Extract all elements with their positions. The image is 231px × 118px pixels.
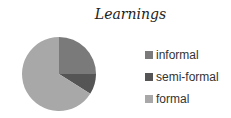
chart-title: Learnings (0, 6, 231, 22)
legend-item-semi-formal: semi-formal (145, 66, 219, 88)
legend-swatch (145, 51, 153, 59)
legend-swatch (145, 95, 153, 103)
legend-swatch (145, 73, 153, 81)
legend-item-informal: informal (145, 44, 219, 66)
legend-item-formal: formal (145, 88, 219, 110)
legend-label: formal (156, 92, 189, 106)
pie-slice-informal (59, 37, 96, 74)
pie-chart (22, 37, 96, 111)
legend-label: semi-formal (156, 70, 219, 84)
legend-label: informal (156, 48, 199, 62)
legend: informalsemi-formalformal (145, 44, 219, 110)
